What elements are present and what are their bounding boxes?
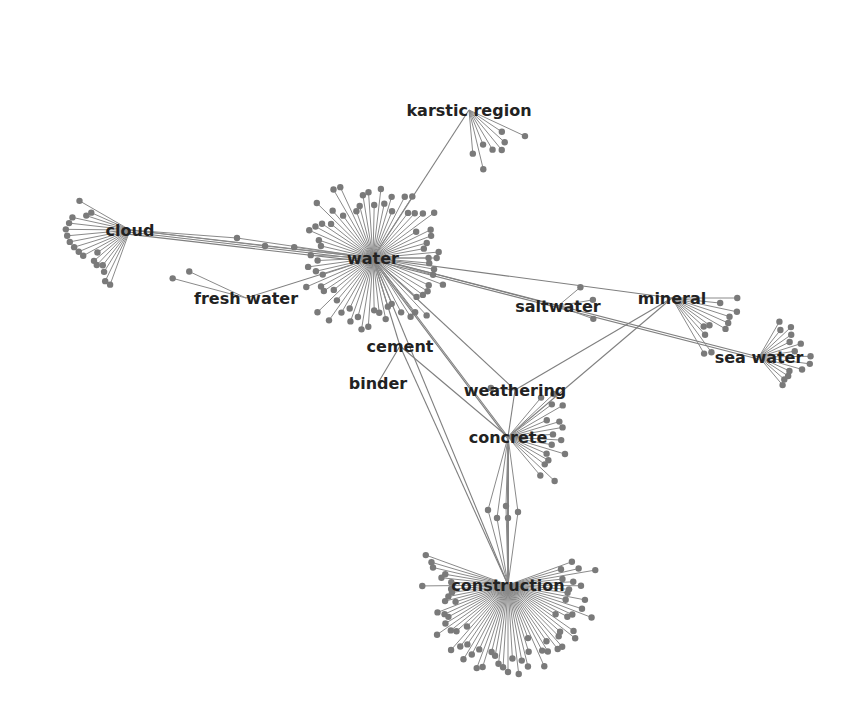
leaf-node-water bbox=[388, 301, 394, 307]
leaf-node-water bbox=[431, 209, 437, 215]
leaf-node-construction bbox=[588, 614, 594, 620]
leaf-node-water bbox=[388, 194, 394, 200]
leaf-node-water bbox=[413, 294, 419, 300]
leaf-node-water bbox=[398, 309, 404, 315]
leaf-node-water bbox=[347, 318, 353, 324]
leaf-node-water bbox=[334, 297, 340, 303]
leaf-node-construction bbox=[505, 669, 511, 675]
leaf-node-water bbox=[358, 326, 364, 332]
bridge-node bbox=[494, 515, 500, 521]
leaf-node-water bbox=[409, 193, 415, 199]
leaf-node-water bbox=[424, 288, 430, 294]
leaf-node-construction bbox=[566, 586, 572, 592]
leaf-node-water bbox=[316, 237, 322, 243]
leaf-node-water bbox=[321, 288, 327, 294]
leaf-node-fresh_water bbox=[186, 268, 192, 274]
leaf-node-sea_water bbox=[776, 318, 782, 324]
leaf-node-construction bbox=[445, 614, 451, 620]
leaf-node-karstic_region bbox=[501, 139, 507, 145]
leaf-node-water bbox=[435, 249, 441, 255]
leaf-node-concrete bbox=[537, 472, 543, 478]
leaf-node-water bbox=[365, 324, 371, 330]
leaf-node-water bbox=[306, 227, 312, 233]
leaf-node-concrete bbox=[556, 418, 562, 424]
leaf-node-cloud bbox=[63, 226, 69, 232]
bridge-node bbox=[515, 509, 521, 515]
node-label-cloud: cloud bbox=[106, 221, 155, 240]
leaf-node-sea_water bbox=[786, 368, 792, 374]
node-label-binder: binder bbox=[349, 374, 408, 393]
leaf-node-water bbox=[423, 312, 429, 318]
leaf-node-water bbox=[433, 255, 439, 261]
leaf-node-water bbox=[291, 244, 297, 250]
leaf-node-karstic_region bbox=[499, 129, 505, 135]
leaf-node-construction bbox=[582, 597, 588, 603]
leaf-node-construction bbox=[552, 611, 558, 617]
leaf-node-cloud bbox=[69, 214, 75, 220]
leaf-node-mineral bbox=[701, 323, 707, 329]
leaf-node-water bbox=[347, 305, 353, 311]
leaf-node-sea_water bbox=[779, 382, 785, 388]
node-label-fresh-water: fresh water bbox=[194, 289, 298, 308]
leaf-node-water bbox=[427, 227, 433, 233]
leaf-node-concrete bbox=[549, 401, 555, 407]
leaf-node-construction bbox=[452, 599, 458, 605]
leaf-node-water bbox=[303, 284, 309, 290]
leaf-node-construction bbox=[492, 653, 498, 659]
leaf-node-construction bbox=[448, 627, 454, 633]
leaf-node-construction bbox=[479, 664, 485, 670]
leaf-node-sea_water bbox=[807, 353, 813, 359]
bridge-edge bbox=[508, 437, 518, 512]
leaf-node-water bbox=[314, 309, 320, 315]
leaf-node-water bbox=[365, 189, 371, 195]
leaf-node-construction bbox=[430, 564, 436, 570]
node-label-saltwater: saltwater bbox=[515, 297, 601, 316]
node-label-sea-water: sea water bbox=[715, 348, 804, 367]
leaf-node-water bbox=[331, 287, 337, 293]
leaf-node-sea_water bbox=[807, 361, 813, 367]
leaf-node-cloud bbox=[101, 269, 107, 275]
leaf-node-water bbox=[305, 264, 311, 270]
edge-water-mineral bbox=[373, 258, 672, 298]
leaf-node-construction bbox=[575, 565, 581, 571]
leaf-node-construction bbox=[541, 663, 547, 669]
leaf-node-water bbox=[337, 184, 343, 190]
leaf-node-construction bbox=[562, 597, 568, 603]
leaf-node-water bbox=[340, 212, 346, 218]
leaf-node-cloud bbox=[64, 233, 70, 239]
bridge-node bbox=[234, 235, 240, 241]
leaf-node-construction bbox=[572, 635, 578, 641]
leaf-node-construction bbox=[570, 579, 576, 585]
leaf-node-construction bbox=[592, 567, 598, 573]
leaf-node-construction bbox=[569, 611, 575, 617]
leaf-node-water bbox=[428, 233, 434, 239]
leaf-node-concrete bbox=[545, 457, 551, 463]
leaf-node-water bbox=[425, 255, 431, 261]
leaf-node-construction bbox=[460, 656, 466, 662]
leaf-node-construction bbox=[525, 635, 531, 641]
leaf-node-construction bbox=[570, 628, 576, 634]
leaf-node-construction bbox=[464, 623, 470, 629]
leaf-node-construction bbox=[557, 629, 563, 635]
leaf-node-water bbox=[405, 210, 411, 216]
leaf-node-construction bbox=[442, 620, 448, 626]
leaf-node-water bbox=[314, 200, 320, 206]
leaf-node-karstic_region bbox=[470, 150, 476, 156]
leaf-node-cloud bbox=[71, 244, 77, 250]
leaf-node-water bbox=[319, 221, 325, 227]
leaf-node-sea_water bbox=[786, 339, 792, 345]
leaf-nodes bbox=[63, 129, 814, 678]
node-label-water: water bbox=[347, 249, 399, 268]
leaf-node-concrete bbox=[559, 424, 565, 430]
leaf-node-water bbox=[389, 208, 395, 214]
leaf-node-construction bbox=[448, 647, 454, 653]
node-label-weathering: weathering bbox=[464, 381, 567, 400]
leaf-node-concrete bbox=[549, 442, 555, 448]
leaf-node-cloud bbox=[80, 253, 86, 259]
bridge-edge bbox=[508, 512, 518, 585]
leaf-node-sea_water bbox=[788, 332, 794, 338]
leaf-node-water bbox=[326, 317, 332, 323]
node-label-concrete: concrete bbox=[469, 428, 548, 447]
leaf-node-construction bbox=[559, 644, 565, 650]
leaf-node-construction bbox=[509, 655, 515, 661]
